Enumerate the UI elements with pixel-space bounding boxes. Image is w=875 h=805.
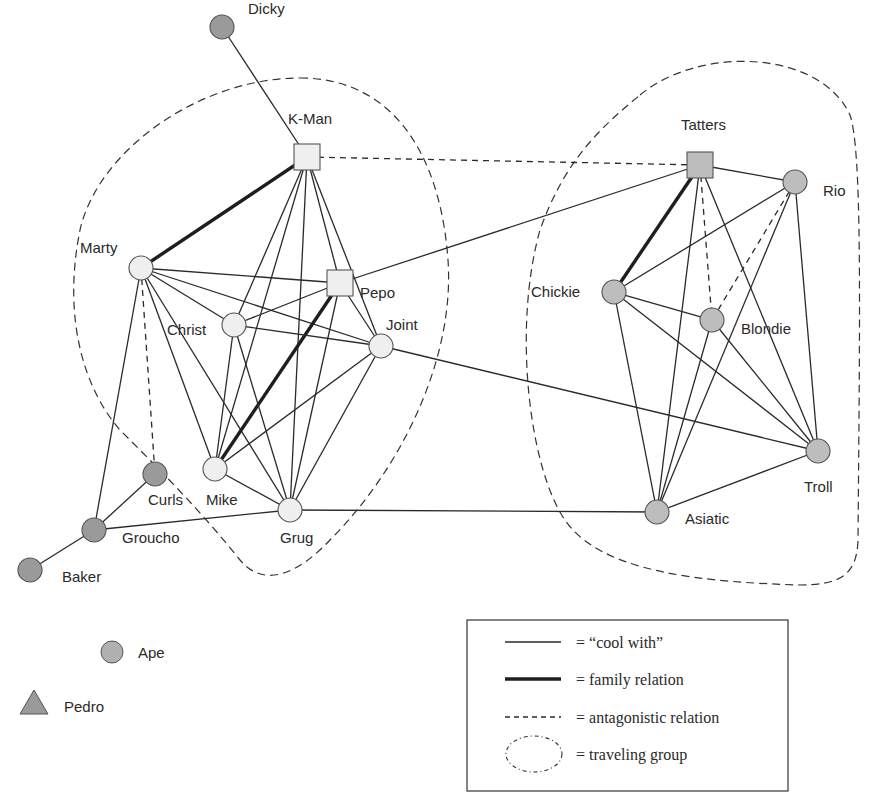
node-grug-label: Grug bbox=[280, 529, 313, 546]
node-joint-label: Joint bbox=[386, 316, 419, 333]
legend-antag-text: = antagonistic relation bbox=[576, 709, 719, 727]
node-curls-circle-icon bbox=[143, 462, 167, 486]
right-traveling-group bbox=[526, 61, 859, 585]
legend: = “cool with” = family relation = antago… bbox=[467, 620, 788, 791]
edge-cool-tatters-rio bbox=[700, 165, 795, 182]
edge-family-pepo-mike bbox=[215, 283, 340, 469]
node-k-man-square-icon bbox=[294, 144, 320, 170]
node-blondie-label: Blondie bbox=[741, 320, 791, 337]
edge-cool-marty-pepo bbox=[141, 268, 340, 283]
node-marty-label: Marty bbox=[80, 239, 118, 256]
edge-cool-joint-grug bbox=[290, 346, 381, 510]
edge-cool-joint-mike bbox=[215, 346, 381, 469]
node-groucho-label: Groucho bbox=[122, 529, 180, 546]
edge-antag-rio-blondie bbox=[712, 182, 795, 320]
edge-cool-k-man-mike bbox=[215, 157, 307, 469]
node-chickie-circle-icon bbox=[602, 280, 626, 304]
node-tatters-label: Tatters bbox=[681, 116, 726, 133]
edge-cool-christ-grug bbox=[234, 325, 290, 510]
node-marty-circle-icon bbox=[129, 256, 153, 280]
legend-cool-text: = “cool with” bbox=[576, 634, 663, 651]
node-asiatic-label: Asiatic bbox=[685, 510, 730, 527]
edge-cool-pepo-tatters bbox=[340, 165, 700, 283]
node-baker-circle-icon bbox=[18, 558, 42, 582]
node-asiatic-circle-icon bbox=[645, 500, 669, 524]
node-joint-circle-icon bbox=[369, 334, 393, 358]
node-k-man-label: K-Man bbox=[288, 110, 332, 127]
edge-antag-k-man-tatters bbox=[307, 157, 700, 165]
edge-cool-grug-groucho bbox=[94, 510, 290, 530]
node-curls-label: Curls bbox=[148, 491, 183, 508]
edge-cool-joint-troll bbox=[381, 346, 818, 451]
edge-cool-rio-troll bbox=[795, 182, 818, 451]
node-rio-label: Rio bbox=[823, 182, 846, 199]
edge-cool-blondie-asiatic bbox=[657, 320, 712, 512]
node-chickie-label: Chickie bbox=[531, 283, 580, 300]
relation-edges bbox=[30, 27, 818, 570]
edge-cool-christ-joint bbox=[234, 325, 381, 346]
edge-cool-chickie-blondie bbox=[614, 292, 712, 320]
edge-cool-rio-chickie bbox=[614, 182, 795, 292]
edge-cool-pepo-grug bbox=[290, 283, 340, 510]
node-pepo-label: Pepo bbox=[360, 284, 395, 301]
edge-cool-blondie-troll bbox=[712, 320, 818, 451]
edge-cool-grug-asiatic bbox=[290, 510, 657, 512]
edge-cool-tatters-troll bbox=[700, 165, 818, 451]
social-network-diagram: DickyK-ManMartyPepoChristJointMikeCurlsG… bbox=[0, 0, 875, 805]
edge-family-k-man-marty bbox=[141, 157, 307, 268]
edge-cool-chickie-asiatic bbox=[614, 292, 657, 512]
node-grug-circle-icon bbox=[278, 498, 302, 522]
node-troll-circle-icon bbox=[806, 439, 830, 463]
ape-key-label: Ape bbox=[138, 644, 165, 661]
node-christ-label: Christ bbox=[167, 321, 207, 338]
legend-family-text: = family relation bbox=[576, 671, 684, 689]
node-type-key: Ape Pedro bbox=[20, 641, 165, 715]
edge-cool-asiatic-troll bbox=[657, 451, 818, 512]
node-mike-circle-icon bbox=[203, 457, 227, 481]
node-rio-circle-icon bbox=[783, 170, 807, 194]
node-tatters-square-icon bbox=[687, 152, 713, 178]
edge-cool-k-man-pepo bbox=[307, 157, 340, 283]
node-blondie-circle-icon bbox=[700, 308, 724, 332]
pedro-triangle-icon bbox=[20, 690, 48, 714]
edge-cool-marty-groucho bbox=[94, 268, 141, 530]
pedro-key-label: Pedro bbox=[64, 698, 104, 715]
ape-key-icon bbox=[101, 641, 123, 663]
node-dicky-circle-icon bbox=[210, 15, 234, 39]
node-pepo-square-icon bbox=[327, 270, 353, 296]
node-dicky-label: Dicky bbox=[248, 0, 285, 17]
node-baker-label: Baker bbox=[62, 568, 101, 585]
node-mike-label: Mike bbox=[206, 491, 238, 508]
node-christ-circle-icon bbox=[222, 313, 246, 337]
edge-cool-marty-mike bbox=[141, 268, 215, 469]
edge-cool-dicky-k-man bbox=[222, 27, 307, 157]
node-troll-label: Troll bbox=[804, 478, 833, 495]
edge-cool-marty-christ bbox=[141, 268, 234, 325]
legend-group-text: = traveling group bbox=[576, 746, 687, 764]
node-groucho-circle-icon bbox=[82, 518, 106, 542]
